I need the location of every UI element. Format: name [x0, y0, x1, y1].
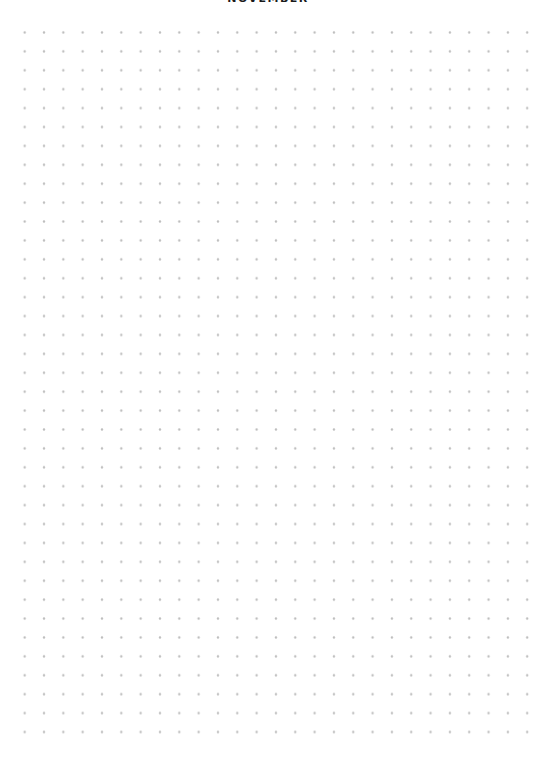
dot-grid: [15, 23, 534, 742]
page-title: NOVEMBER: [4, 0, 532, 5]
